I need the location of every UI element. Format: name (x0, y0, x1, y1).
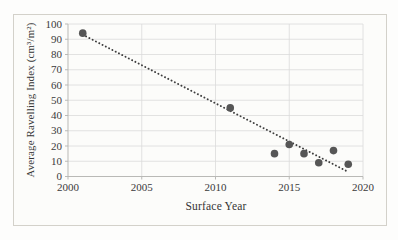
data-point (344, 161, 352, 169)
y-tick-label: 90 (51, 33, 63, 45)
x-tick-label: 2010 (205, 181, 228, 193)
y-tick-label: 80 (51, 48, 63, 60)
x-axis-title: Surface Year (185, 200, 246, 212)
y-tick-label: 60 (51, 79, 63, 91)
x-tick-label: 2000 (57, 181, 80, 193)
y-tick-label: 70 (51, 63, 63, 75)
y-tick-label: 20 (51, 140, 63, 152)
data-point (79, 29, 87, 37)
x-tick-label: 2015 (278, 181, 301, 193)
data-point (285, 141, 293, 149)
y-tick-label: 100 (46, 18, 63, 30)
y-tick-label: 30 (51, 124, 63, 136)
y-tick-label: 10 (51, 155, 63, 167)
x-tick-label: 2020 (352, 181, 375, 193)
x-tick-label: 2005 (131, 181, 154, 193)
data-point (330, 147, 338, 155)
data-point (271, 150, 279, 158)
data-point (226, 104, 234, 112)
y-tick-label: 50 (51, 94, 63, 106)
data-point (300, 150, 308, 158)
y-tick-label: 40 (51, 109, 63, 121)
data-point (315, 159, 323, 167)
y-axis-title: Average Ravelling Index (cm³/m²) (24, 22, 36, 177)
